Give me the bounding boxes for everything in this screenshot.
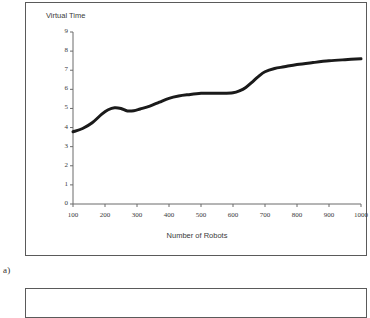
plot-canvas [26,3,368,257]
figure-caption-a: a) [3,265,10,275]
figure-panel-a: Virtual Time Number of Robots 0123456789… [25,2,367,256]
data-series-line [73,59,361,132]
figure-panel-b [25,288,367,318]
chart-virtual-time-vs-robots: Virtual Time Number of Robots 0123456789… [26,3,368,257]
tick-marks [70,32,361,207]
